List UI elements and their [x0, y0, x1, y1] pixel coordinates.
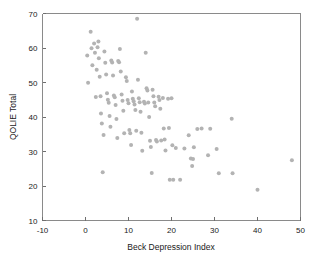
scatter-point [157, 95, 161, 99]
scatter-point [230, 117, 234, 121]
scatter-point [206, 153, 210, 157]
scatter-point [97, 56, 101, 60]
scatter-point [170, 96, 174, 100]
scatter-point [129, 143, 133, 147]
x-tick-label: 40 [253, 226, 262, 235]
scatter-point [136, 78, 140, 82]
scatter-point [117, 60, 121, 64]
scatter-point [110, 60, 114, 64]
scatter-point [93, 51, 97, 55]
scatter-point [86, 81, 90, 85]
x-tick-label: 30 [210, 226, 219, 235]
scatter-point [168, 178, 172, 182]
scatter-point [98, 75, 102, 79]
scatter-point [114, 117, 118, 121]
scatter-point [153, 104, 157, 108]
scatter-point [256, 188, 260, 192]
x-tick-label: 10 [124, 226, 133, 235]
scatter-point [157, 98, 161, 102]
scatter-point [148, 139, 152, 143]
scatter-point [119, 69, 123, 73]
y-tick-label: 20 [29, 182, 38, 191]
scatter-point [151, 94, 155, 98]
scatter-point [107, 101, 111, 105]
scatter-point [208, 127, 212, 131]
scatter-point [140, 149, 144, 153]
scatter-point [149, 145, 153, 149]
scatter-point [113, 95, 117, 99]
scatter-point [120, 93, 124, 97]
x-tick-label: 50 [296, 226, 305, 235]
x-tick-label: 0 [83, 226, 88, 235]
scatter-point [134, 129, 138, 133]
scatter-point [152, 101, 156, 105]
scatter-point [103, 61, 107, 65]
scatter-point [231, 171, 235, 175]
scatter-point [125, 79, 129, 83]
scatter-point [102, 49, 106, 53]
chart-canvas: -1001020304050 10203040506070 Beck Depre… [0, 0, 318, 265]
scatter-point [182, 146, 186, 150]
scatter-point [155, 140, 159, 144]
scatter-point [145, 88, 149, 92]
scatter-point [146, 101, 150, 105]
scatter-point [90, 63, 94, 67]
scatter-point [133, 108, 137, 112]
scatter-point [147, 115, 151, 119]
scatter-point [151, 88, 155, 92]
scatter-point [290, 158, 294, 162]
y-tick-label: 10 [29, 217, 38, 226]
scatter-point [163, 148, 167, 152]
scatter-point [143, 102, 147, 106]
scatter-point [217, 171, 221, 175]
y-axis-title: QOLIE Total [8, 94, 18, 140]
scatter-point [163, 137, 167, 141]
scatter-point [99, 112, 103, 116]
scatter-point [158, 107, 162, 111]
scatter-point [167, 126, 171, 130]
x-axis-title: Beck Depression Index [127, 242, 215, 252]
scatter-point [144, 51, 148, 55]
scatter-point [161, 96, 165, 100]
scatter-point [124, 75, 128, 79]
scatter-point [122, 131, 126, 135]
scatter-point [104, 73, 108, 77]
scatter-point [159, 138, 163, 142]
scatter-point [89, 30, 93, 34]
scatter-point [99, 94, 103, 98]
scatter-point [150, 171, 154, 175]
scatter-point [111, 74, 115, 78]
scatter-point [96, 39, 100, 43]
scatter-point [121, 109, 125, 113]
scatter-point [101, 170, 105, 174]
x-tick-label: 20 [167, 226, 176, 235]
scatter-point [195, 127, 199, 131]
scatter-point [187, 133, 191, 137]
y-tick-label: 30 [29, 148, 38, 157]
scatter-point [174, 146, 178, 150]
scatter-point [137, 96, 141, 100]
scatter-point [178, 178, 182, 182]
scatter-point [139, 131, 143, 135]
scatter-point [118, 47, 122, 51]
scatter-point [171, 178, 175, 182]
y-tick-label: 70 [29, 10, 38, 19]
scatter-point [102, 133, 106, 137]
scatter-point [127, 101, 131, 105]
scatter-point [133, 103, 137, 107]
x-tick-label: -10 [37, 226, 49, 235]
scatter-point [96, 45, 100, 49]
scatter-point [120, 99, 124, 103]
scatter-point [138, 100, 142, 104]
scatter-point [95, 68, 99, 72]
scatter-point [215, 147, 219, 151]
scatter-point [130, 89, 134, 93]
y-tick-label: 50 [29, 79, 38, 88]
scatter-point [108, 114, 112, 118]
scatter-plot-figure: -1001020304050 10203040506070 Beck Depre… [0, 0, 318, 265]
scatter-point [139, 110, 143, 114]
y-tick-label: 40 [29, 113, 38, 122]
scatter-point [108, 125, 112, 129]
scatter-point [128, 131, 132, 135]
scatter-point [191, 157, 195, 161]
